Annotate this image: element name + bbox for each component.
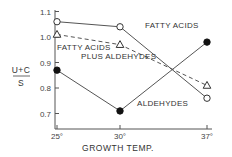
- y-tick-label: 0.7: [40, 110, 52, 119]
- y-axis-title: U+C S: [12, 65, 31, 88]
- y-label-numerator: U+C: [12, 65, 31, 75]
- label-aldehydes: ALDEHYDES: [137, 99, 188, 108]
- x-tick-label: 30°: [114, 132, 126, 141]
- triangle-marker: [203, 81, 211, 88]
- filled-circle-marker: [117, 108, 123, 114]
- triangle-marker: [116, 41, 124, 48]
- line-chart: 0.70.80.91.01.1 25°30°37° U+C S GROWTH T…: [0, 0, 232, 157]
- x-tick-label: 37°: [201, 132, 213, 141]
- y-tick-label: 1.1: [40, 8, 52, 17]
- open-circle-marker: [204, 95, 210, 101]
- label-fatty-acids-plus-aldehydes-line2: PLUS ALDEHYDES: [81, 52, 156, 61]
- label-fatty-acids: FATTY ACIDS: [145, 21, 199, 30]
- x-axis-title: GROWTH TEMP.: [82, 143, 154, 153]
- y-label-denominator: S: [18, 78, 24, 88]
- y-tick-label: 1.0: [40, 33, 52, 42]
- x-ticks: 25°30°37°: [51, 125, 213, 141]
- label-fatty-acids-plus-aldehydes-line1: FATTY ACIDS: [57, 43, 111, 52]
- open-circle-marker: [54, 19, 60, 25]
- open-circle-marker: [117, 24, 123, 30]
- y-tick-label: 0.9: [40, 59, 52, 68]
- filled-circle-marker: [204, 39, 210, 45]
- filled-circle-marker: [54, 67, 60, 73]
- y-tick-label: 0.8: [40, 84, 52, 93]
- x-tick-label: 25°: [51, 132, 63, 141]
- triangle-marker: [53, 30, 61, 37]
